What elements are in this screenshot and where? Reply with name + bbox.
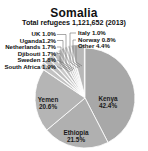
- slice-label-yemen-value: 20.6%: [39, 103, 57, 110]
- leader-line-uk: [57, 35, 74, 70]
- callout-label-south-africa: South Africa 1.9%: [0, 64, 56, 71]
- slice-label-kenya-value: 42.4%: [99, 102, 117, 109]
- leader-line-south-africa: [57, 67, 62, 70]
- slice-label-ethiopia-value: 21.5%: [67, 136, 85, 143]
- slice-label-kenya-name: Kenya: [98, 95, 117, 102]
- slice-label-yemen-name: Yemen: [38, 96, 59, 103]
- leader-line-djibouti: [57, 54, 70, 73]
- slice-label-ethiopia: Ethiopia 21.5%: [54, 129, 98, 143]
- slice-label-kenya: Kenya 42.4%: [88, 95, 128, 109]
- callout-label-other: Other 4.4%: [78, 43, 110, 50]
- slice-label-ethiopia-name: Ethiopia: [63, 129, 88, 136]
- slice-label-yemen: Yemen 20.6%: [28, 96, 68, 110]
- leader-line-uganda: [57, 41, 73, 71]
- pie-chart-figure: Somalia Total refugees 1,121,652 (2013) …: [0, 0, 148, 151]
